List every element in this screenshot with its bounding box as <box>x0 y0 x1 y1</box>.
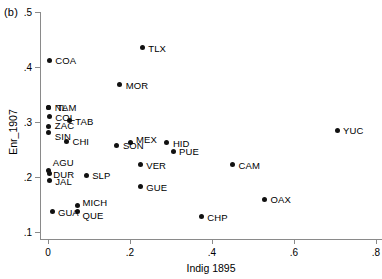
data-point-coa <box>47 58 52 63</box>
data-point-label-oax: OAX <box>270 194 290 205</box>
data-point-label-cam: CAM <box>239 159 260 170</box>
data-point-cam <box>230 162 235 167</box>
data-point-zac <box>46 124 51 129</box>
data-point-label-tlx: TLX <box>148 42 166 53</box>
data-point-label-que: QUE <box>83 210 104 221</box>
data-point-gue <box>138 184 143 189</box>
data-point-label-mich: MICH <box>83 196 108 207</box>
data-point-label-jal: JAL <box>55 175 72 186</box>
data-point-label-son: SON <box>123 140 144 151</box>
data-point-chi <box>64 139 69 144</box>
data-point-hid <box>164 140 169 145</box>
data-point-yuc <box>335 128 340 133</box>
data-point-ver <box>138 162 143 167</box>
data-point-col <box>47 114 52 119</box>
data-point-label-agu: AGU <box>53 157 74 168</box>
data-point-jal <box>47 178 52 183</box>
data-point-oax <box>262 197 267 202</box>
scatter-plot-figure: (b) .1.2.3.4.5 0.2.4.6.8 Enr_1907 Indig … <box>0 0 382 279</box>
data-point-gua <box>50 209 55 214</box>
data-point-dur <box>47 171 52 176</box>
data-point-label-zac: ZAC <box>55 119 74 130</box>
data-point-son <box>114 143 119 148</box>
data-point-label-chp: CHP <box>207 211 227 222</box>
data-point-label-tab: TAB <box>75 115 93 126</box>
data-point-label-ver: VER <box>146 159 166 170</box>
data-point-pue <box>171 149 176 154</box>
data-point-tlx <box>140 45 145 50</box>
data-point-label-slp: SLP <box>92 170 110 181</box>
data-point-label-gua: GUA <box>58 206 79 217</box>
data-point-label-coa: COA <box>55 55 76 66</box>
plot-area: TLXCOAMORNLTAMCOLTABZACSINYUCCHIMEXSONHI… <box>0 0 382 279</box>
data-point-label-chi: CHI <box>72 136 89 147</box>
data-point-label-gue: GUE <box>146 181 167 192</box>
data-point-label-pue: PUE <box>179 146 199 157</box>
data-point-slp <box>84 173 89 178</box>
data-point-label-mor: MOR <box>126 79 148 90</box>
data-point-tam <box>46 105 51 110</box>
data-point-chp <box>199 214 204 219</box>
data-point-sin <box>46 130 51 135</box>
data-point-label-yuc: YUC <box>343 125 363 136</box>
data-point-mor <box>117 82 122 87</box>
